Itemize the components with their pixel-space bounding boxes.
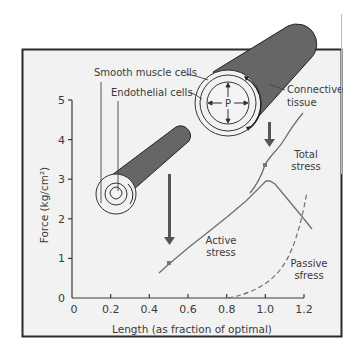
x-axis-label: Length (as fraction of optimal) (112, 323, 272, 335)
x-tick-0-8: 0.8 (218, 303, 236, 316)
active-label-2: stress (206, 247, 236, 258)
endothelial-label: Endothelial cells (111, 87, 193, 98)
active-stress-marker (167, 261, 171, 265)
x-tick-0-4: 0.4 (141, 303, 159, 316)
pressure-label: P (225, 98, 231, 109)
connective-label-1: Connective (287, 84, 343, 95)
smooth-muscle-label: Smooth muscle cells (94, 67, 197, 78)
x-tick-0-6: 0.6 (179, 303, 197, 316)
passive-label-2: sfress (294, 270, 323, 281)
x-tick-1-2: 1.2 (295, 303, 313, 316)
active-label-1: Active (206, 235, 237, 246)
y-tick-0: 0 (58, 292, 65, 305)
y-tick-1: 1 (58, 252, 65, 265)
total-label-1: Total (293, 149, 317, 160)
page-rule (341, 14, 342, 174)
connective-label-2: tissue (287, 97, 317, 108)
y-tick-2: 2 (58, 213, 65, 226)
x-tick-0: 0 (71, 303, 78, 316)
x-tick-0-2: 0.2 (102, 303, 120, 316)
figure: 0 1 2 3 4 5 0 0.2 0.4 0.6 0.8 1.0 1.2 Le… (0, 0, 361, 362)
y-tick-5: 5 (58, 94, 65, 107)
total-label-2: stress (291, 161, 321, 172)
total-stress-marker (263, 163, 267, 167)
x-tick-1-0: 1.0 (257, 303, 275, 316)
y-tick-3: 3 (58, 173, 65, 186)
chart-svg: 0 1 2 3 4 5 0 0.2 0.4 0.6 0.8 1.0 1.2 Le… (0, 0, 361, 362)
y-axis-label: Force (kg/cm²) (38, 167, 50, 243)
y-tick-4: 4 (58, 134, 65, 147)
passive-label-1: Passive (291, 258, 328, 269)
